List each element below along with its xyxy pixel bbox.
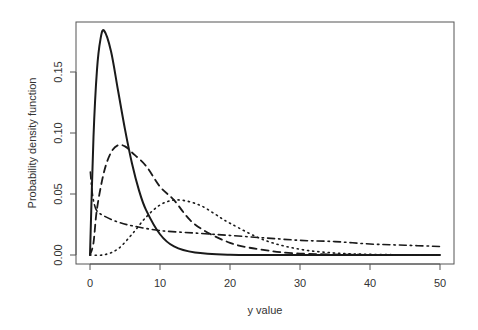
y-tick-label: 0.05 xyxy=(52,183,64,204)
x-tick-label: 20 xyxy=(224,277,236,289)
y-tick-label: 0.10 xyxy=(52,122,64,143)
curve-dash-dot xyxy=(90,172,440,246)
density-chart: 01020304050 0.000.050.100.15 y value Pro… xyxy=(0,0,478,330)
y-axis: 0.000.050.100.15 xyxy=(52,61,76,265)
x-tick-label: 30 xyxy=(294,277,306,289)
y-tick-label: 0.15 xyxy=(52,61,64,82)
x-tick-label: 50 xyxy=(434,277,446,289)
x-tick-label: 40 xyxy=(364,277,376,289)
y-tick-label: 0.00 xyxy=(52,244,64,265)
x-axis-title: y value xyxy=(248,304,283,316)
y-axis-title: Probability density function xyxy=(26,78,38,209)
x-tick-label: 10 xyxy=(154,277,166,289)
x-tick-label: 0 xyxy=(87,277,93,289)
curves xyxy=(90,30,440,255)
curve-solid xyxy=(90,30,440,255)
plot-frame xyxy=(76,22,454,264)
x-axis: 01020304050 xyxy=(87,264,446,289)
